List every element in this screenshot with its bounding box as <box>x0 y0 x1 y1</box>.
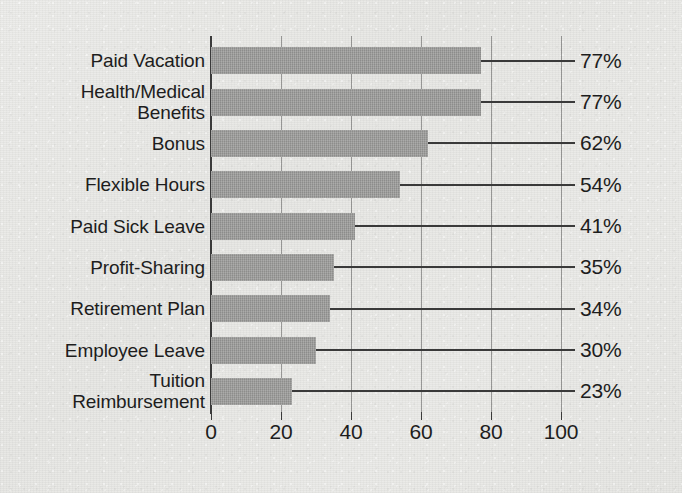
category-label: Tuition Reimbursement <box>72 370 205 412</box>
category-label: Health/Medical Benefits <box>81 81 205 123</box>
chart-canvas: Paid VacationHealth/Medical BenefitsBonu… <box>0 0 682 493</box>
x-tick-label-80: 80 <box>480 421 503 443</box>
bar[interactable] <box>211 130 428 157</box>
category-label: Bonus <box>152 133 205 154</box>
leader-line <box>330 308 575 310</box>
leader-line <box>292 390 576 392</box>
category-label: Retirement Plan <box>70 298 205 319</box>
category-label: Employee Leave <box>65 340 205 361</box>
x-tick-mark-40 <box>351 412 352 420</box>
bar[interactable] <box>211 378 292 405</box>
value-label: 34% <box>580 298 621 319</box>
x-tick-label-100: 100 <box>544 421 578 443</box>
value-label: 41% <box>580 215 621 236</box>
bar[interactable] <box>211 337 316 364</box>
bar[interactable] <box>211 171 400 198</box>
leader-line <box>481 60 576 62</box>
value-label: 30% <box>580 339 621 360</box>
x-tick-mark-80 <box>491 412 492 420</box>
value-label: 23% <box>580 380 621 401</box>
leader-line <box>355 225 576 227</box>
bar[interactable] <box>211 254 334 281</box>
leader-line <box>481 101 576 103</box>
category-label: Profit-Sharing <box>90 257 205 278</box>
leader-line <box>428 142 575 144</box>
leader-line <box>400 184 575 186</box>
category-label: Paid Vacation <box>90 50 205 71</box>
x-tick-label-0: 0 <box>205 421 216 443</box>
x-tick-mark-0 <box>211 412 212 420</box>
value-label: 54% <box>580 174 621 195</box>
x-tick-mark-20 <box>281 412 282 420</box>
leader-line <box>334 266 576 268</box>
value-label: 62% <box>580 132 621 153</box>
x-tick-label-60: 60 <box>410 421 433 443</box>
x-tick-label-40: 40 <box>340 421 363 443</box>
plot-area <box>211 40 561 412</box>
bar[interactable] <box>211 47 481 74</box>
value-label: 77% <box>580 50 621 71</box>
bar[interactable] <box>211 295 330 322</box>
bar[interactable] <box>211 213 355 240</box>
value-label: 35% <box>580 256 621 277</box>
value-label: 77% <box>580 91 621 112</box>
leader-line <box>316 349 575 351</box>
bar[interactable] <box>211 89 481 116</box>
x-tick-label-20: 20 <box>270 421 293 443</box>
gridline-100 <box>561 36 562 412</box>
x-tick-mark-100 <box>561 412 562 420</box>
x-tick-mark-60 <box>421 412 422 420</box>
category-label: Flexible Hours <box>85 174 205 195</box>
category-label: Paid Sick Leave <box>70 216 205 237</box>
